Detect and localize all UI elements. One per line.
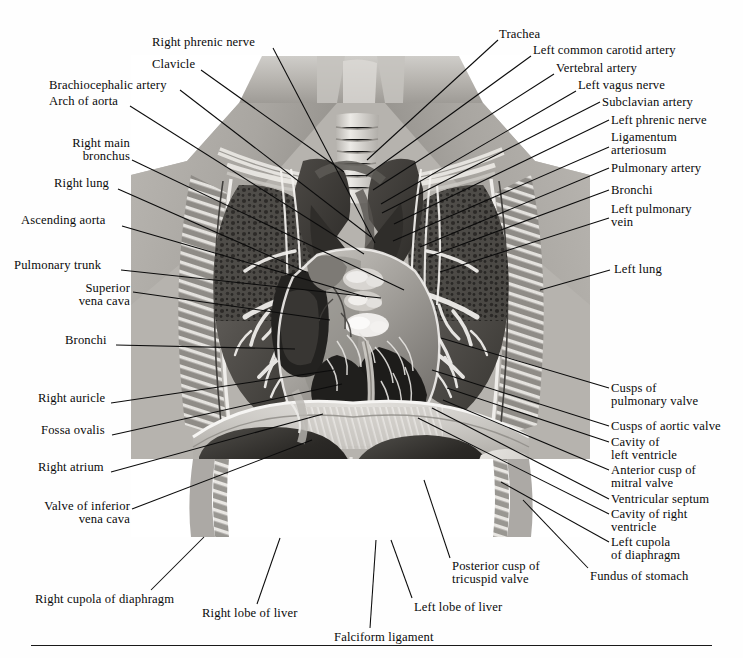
label-right-cupola-of-diaphragm: Right cupola of diaphragm <box>35 593 174 606</box>
label-left-lobe-of-liver: Left lobe of liver <box>414 601 502 614</box>
label-line: Left common carotid artery <box>533 44 676 57</box>
label-line: Cusps of aortic valve <box>611 420 721 433</box>
label-line: Right atrium <box>38 461 104 474</box>
label-line: Left lobe of liver <box>414 601 502 614</box>
label-ligamentum-arteriosum: Ligamentumarteriosum <box>611 131 677 158</box>
label-line: Falciform ligament <box>334 631 434 644</box>
leader-line-left-lobe-of-liver <box>391 540 412 598</box>
label-line: ventricle <box>611 521 687 534</box>
label-anterior-cusp-of-mitral-valve: Anterior cusp ofmitral valve <box>611 464 696 491</box>
label-line: Right lobe of liver <box>202 607 298 620</box>
anatomical-plate: Right phrenic nerveClavicleBrachiocephal… <box>0 0 743 658</box>
label-pulmonary-trunk: Pulmonary trunk <box>14 259 101 272</box>
label-line: pulmonary valve <box>611 395 698 408</box>
label-line: Cavity of <box>611 436 677 449</box>
label-subclavian-artery: Subclavian artery <box>602 96 693 109</box>
label-cusps-of-aortic-valve: Cusps of aortic valve <box>611 420 721 433</box>
label-line: arteriosum <box>611 144 677 157</box>
label-line: Right lung <box>54 177 109 190</box>
label-line: Superior <box>56 282 130 295</box>
label-line: Left vagus nerve <box>578 79 665 92</box>
label-line: of diaphragm <box>611 549 680 562</box>
label-line: Ascending aorta <box>21 214 105 227</box>
label-line: Brachiocephalic artery <box>49 79 167 92</box>
label-left-lung: Left lung <box>614 263 662 276</box>
label-left-vagus-nerve: Left vagus nerve <box>578 79 665 92</box>
label-line: Pulmonary artery <box>611 162 701 175</box>
label-right-lobe-of-liver: Right lobe of liver <box>202 607 298 620</box>
label-line: Clavicle <box>152 58 195 71</box>
label-left-pulmonary-vein: Left pulmonaryvein <box>611 203 692 230</box>
label-falciform-ligament: Falciform ligament <box>334 631 434 644</box>
label-line: bronchus <box>47 150 130 163</box>
label-left-cupola-of-diaphragm: Left cupolaof diaphragm <box>611 536 680 563</box>
label-line: Fossa ovalis <box>41 424 105 437</box>
label-line: mitral valve <box>611 477 696 490</box>
label-posterior-cusp-of-tricuspid-valve: Posterior cusp oftricuspid valve <box>452 560 540 587</box>
label-line: vena cava <box>56 295 130 308</box>
label-line: Trachea <box>499 28 540 41</box>
label-right-auricle: Right auricle <box>38 392 105 405</box>
label-line: Valve of inferior <box>18 500 130 513</box>
label-line: Right phrenic nerve <box>152 36 255 49</box>
label-fundus-of-stomach: Fundus of stomach <box>590 570 688 583</box>
label-line: Bronchi <box>611 184 653 197</box>
label-line: Pulmonary trunk <box>14 259 101 272</box>
label-line: Arch of aorta <box>49 95 118 108</box>
label-line: Cavity of right <box>611 508 687 521</box>
label-right-atrium: Right atrium <box>38 461 104 474</box>
label-cusps-of-pulmonary-valve: Cusps ofpulmonary valve <box>611 382 698 409</box>
label-ascending-aorta: Ascending aorta <box>21 214 105 227</box>
label-fossa-ovalis: Fossa ovalis <box>41 424 105 437</box>
label-bronchi-left: Bronchi <box>611 184 653 197</box>
leader-line-right-lobe-of-liver <box>257 538 280 604</box>
label-line: Anterior cusp of <box>611 464 696 477</box>
label-ventricular-septum: Ventricular septum <box>611 493 709 506</box>
label-line: left ventricle <box>611 449 677 462</box>
label-bronchi-right: Bronchi <box>65 334 107 347</box>
label-cavity-of-right-ventricle: Cavity of rightventricle <box>611 508 687 535</box>
label-line: Left cupola <box>611 536 680 549</box>
leader-line-falciform-ligament <box>370 540 376 628</box>
label-left-phrenic-nerve: Left phrenic nerve <box>611 114 707 127</box>
label-line: Ligamentum <box>611 131 677 144</box>
label-line: Right auricle <box>38 392 105 405</box>
label-line: Left pulmonary <box>611 203 692 216</box>
thorax-dissection-figure <box>131 55 590 537</box>
label-brachiocephalic-artery: Brachiocephalic artery <box>49 79 167 92</box>
label-superior-vena-cava: Superiorvena cava <box>56 282 130 309</box>
label-line: Fundus of stomach <box>590 570 688 583</box>
label-right-phrenic-nerve: Right phrenic nerve <box>152 36 255 49</box>
label-arch-of-aorta: Arch of aorta <box>49 95 118 108</box>
label-line: Vertebral artery <box>556 62 637 75</box>
label-right-lung: Right lung <box>54 177 109 190</box>
label-line: Left phrenic nerve <box>611 114 707 127</box>
label-trachea: Trachea <box>499 28 540 41</box>
label-line: Right cupola of diaphragm <box>35 593 174 606</box>
label-clavicle: Clavicle <box>152 58 195 71</box>
label-cavity-of-left-ventricle: Cavity ofleft ventricle <box>611 436 677 463</box>
label-line: Bronchi <box>65 334 107 347</box>
label-line: Subclavian artery <box>602 96 693 109</box>
plate-bottom-rule <box>31 645 712 646</box>
label-vertebral-artery: Vertebral artery <box>556 62 637 75</box>
label-line: Left lung <box>614 263 662 276</box>
label-right-main-bronchus: Right mainbronchus <box>47 137 130 164</box>
label-line: Posterior cusp of <box>452 560 540 573</box>
label-pulmonary-artery: Pulmonary artery <box>611 162 701 175</box>
label-line: Cusps of <box>611 382 698 395</box>
label-line: vein <box>611 216 692 229</box>
label-left-common-carotid-artery: Left common carotid artery <box>533 44 676 57</box>
leader-line-right-cupola-of-diaphragm <box>151 537 204 590</box>
label-line: tricuspid valve <box>452 573 540 586</box>
label-line: Ventricular septum <box>611 493 709 506</box>
label-valve-of-inferior-vena-cava: Valve of inferiorvena cava <box>18 500 130 527</box>
label-line: vena cava <box>18 513 130 526</box>
label-line: Right main <box>47 137 130 150</box>
